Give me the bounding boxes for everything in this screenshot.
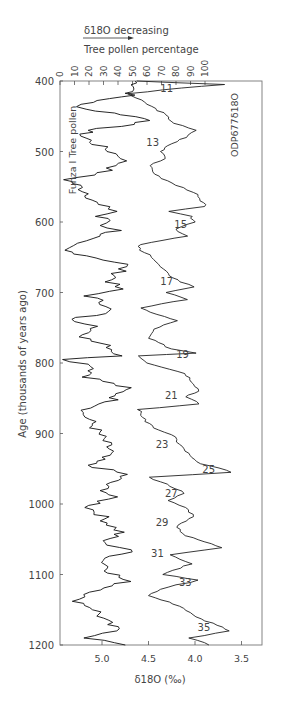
bottom-axis-label: δ18O (‰)	[134, 674, 185, 685]
stage-label: 31	[151, 548, 164, 559]
y-tick-label: 400	[35, 76, 54, 87]
y-tick-label: 500	[35, 147, 54, 158]
bottom-tick-label: 4.0	[187, 653, 202, 664]
stage-label: 15	[174, 219, 187, 230]
stage-label: 17	[160, 276, 173, 287]
stage-label: 13	[146, 137, 159, 148]
stage-label: 27	[165, 488, 178, 499]
top-tick-label: 80	[171, 65, 181, 77]
bottom-tick-label: 3.5	[234, 653, 249, 664]
stage-label: 21	[165, 390, 178, 401]
y-tick-label: 1000	[29, 499, 54, 510]
annotation-delta-decreasing: δ18O decreasing	[84, 25, 169, 36]
plot-frame	[60, 81, 262, 645]
top-tick-label: 20	[84, 65, 94, 77]
stage-label: 11	[160, 83, 173, 94]
stage-label: 29	[156, 517, 169, 528]
stage-label: 25	[202, 464, 215, 475]
y-tick-label: 900	[35, 429, 54, 440]
y-tick-label: 600	[35, 217, 54, 228]
top-tick-label: 50	[128, 65, 138, 77]
bottom-tick-label: 4.5	[141, 653, 156, 664]
stage-label: 35	[198, 622, 211, 633]
top-tick-label: 70	[157, 65, 167, 77]
series-label-d18o: ODP677δ18O	[229, 93, 240, 157]
bottom-axis-ticks: 5.04.54.03.5	[94, 641, 249, 664]
arrow-head-icon	[128, 36, 134, 40]
y-tick-label: 800	[35, 358, 54, 369]
bottom-tick-label: 5.0	[94, 653, 109, 664]
y-tick-label: 1100	[29, 570, 54, 581]
top-tick-label: 40	[113, 65, 123, 77]
series-odp677-d18o	[128, 81, 231, 645]
top-axis-label: Tree pollen percentage	[83, 44, 199, 55]
stage-label: 33	[179, 577, 192, 588]
marine-isotope-stage-labels: 11131517192123252729313335	[146, 83, 215, 633]
y-tick-label: 1200	[29, 640, 54, 651]
y-axis-label: Age (thousands of years ago)	[17, 290, 28, 438]
series-label-pollen: Funza I Tree pollen	[67, 106, 78, 194]
top-tick-label: 60	[142, 65, 152, 77]
stage-label: 23	[156, 439, 169, 450]
top-tick-label: 90	[186, 65, 196, 77]
y-axis-ticks: 400500600700800900100011001200	[29, 76, 63, 651]
chart: δ18O decreasing Tree pollen percentage 0…	[0, 0, 281, 704]
top-tick-label: 0	[55, 71, 65, 77]
y-tick-label: 700	[35, 288, 54, 299]
top-tick-label: 30	[99, 65, 109, 77]
top-tick-label: 100	[200, 60, 210, 77]
stage-label: 19	[176, 349, 189, 360]
top-tick-label: 10	[70, 65, 80, 77]
